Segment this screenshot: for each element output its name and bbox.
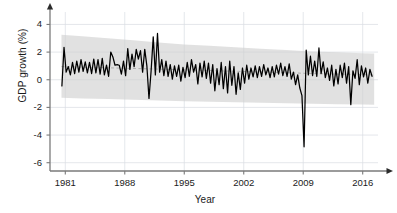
x-tick-label: 2009: [283, 177, 323, 188]
x-tick-label: 1995: [164, 177, 204, 188]
y-axis-title: GDP growth (%): [17, 21, 28, 111]
chart-figure: GDP growth (%) Year 420-2-4-6 1981198819…: [0, 0, 397, 213]
y-tick-label: -4: [20, 129, 42, 140]
x-axis-title: Year: [150, 194, 260, 205]
y-tick-label: -2: [20, 101, 42, 112]
x-tick-label: 2016: [343, 177, 383, 188]
y-tick-label: 2: [20, 46, 42, 57]
y-tick-label: 4: [20, 18, 42, 29]
y-tick-label: -6: [20, 157, 42, 168]
x-tick-label: 2002: [224, 177, 264, 188]
x-tick-label: 1988: [105, 177, 145, 188]
y-tick-label: 0: [20, 74, 42, 85]
x-tick-label: 1981: [45, 177, 85, 188]
